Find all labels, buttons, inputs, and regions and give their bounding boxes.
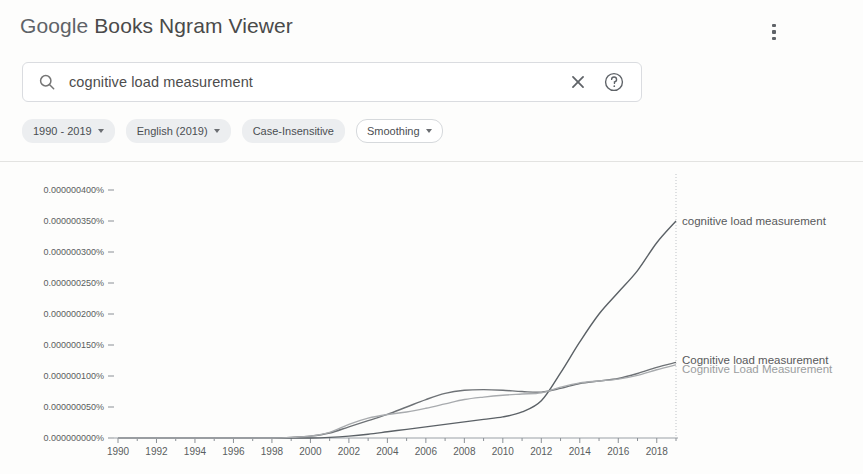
chip-date-range-label: 1990 - 2019 [33,125,92,137]
x-axis-tick-label: 2010 [492,446,515,457]
page-title: Google Books Ngram Viewer [20,14,293,38]
chevron-down-icon [214,129,220,133]
page-title-rest: Books Ngram Viewer [88,14,293,37]
chevron-down-icon [98,129,104,133]
series-line-2[interactable] [118,362,676,438]
x-axis-tick-label: 2002 [338,446,361,457]
chip-corpus[interactable]: English (2019) [126,119,231,143]
close-icon[interactable] [567,71,589,93]
x-axis-tick-label: 2004 [376,446,399,457]
filter-chip-row: 1990 - 2019 English (2019) Case-Insensit… [22,119,443,143]
y-axis-tick-label: 0.000000250% [43,278,104,288]
x-axis-tick-label: 2016 [607,446,630,457]
x-axis-tick-label: 2008 [453,446,476,457]
search-input[interactable]: cognitive load measurement [69,74,567,90]
x-axis-tick-label: 1998 [261,446,284,457]
chip-case-insensitive[interactable]: Case-Insensitive [242,119,345,143]
y-axis-tick-label: 0.000000100% [43,371,104,381]
chip-case-insensitive-label: Case-Insensitive [253,125,334,137]
y-axis-tick-label: 0.000000000% [43,433,104,443]
dot-1 [772,24,776,28]
ngram-chart[interactable]: 0.000000400%0.000000350%0.000000300%0.00… [0,166,863,466]
ngram-chart-svg[interactable]: 0.000000400%0.000000350%0.000000300%0.00… [0,166,863,466]
x-axis-tick-label: 1994 [184,446,207,457]
y-axis-tick-label: 0.000000200% [43,309,104,319]
search-icon [37,72,57,92]
chevron-down-icon [426,129,432,133]
x-axis-tick-label: 2000 [299,446,322,457]
x-axis-tick-label: 1996 [222,446,245,457]
ngram-viewer-page: Google Books Ngram Viewer cognitive load… [0,0,863,474]
x-axis-tick-label: 1990 [107,446,130,457]
x-axis-tick-label: 2012 [530,446,553,457]
x-axis-tick-label: 1992 [145,446,168,457]
y-axis-tick-label: 0.000000150% [43,340,104,350]
x-axis-tick-label: 2018 [646,446,669,457]
chip-smoothing[interactable]: Smoothing [356,119,443,143]
legend-label-3[interactable]: Cognitive Load Measurement [682,363,833,375]
chip-smoothing-label: Smoothing [367,125,420,137]
help-circle-icon[interactable] [603,71,625,93]
google-wordmark: Google [20,14,88,37]
dot-3 [772,37,776,41]
y-axis-tick-label: 0.000000300% [43,247,104,257]
search-bar[interactable]: cognitive load measurement [22,62,642,102]
y-axis-tick-label: 0.000000350% [43,216,104,226]
chip-corpus-label: English (2019) [137,125,208,137]
chip-date-range[interactable]: 1990 - 2019 [22,119,115,143]
header-divider [0,161,863,162]
legend-label-1[interactable]: cognitive load measurement [682,215,827,227]
x-axis-tick-label: 2006 [415,446,438,457]
series-line-3[interactable] [118,365,676,438]
y-axis-tick-label: 0.000000050% [43,402,104,412]
dot-2 [772,30,776,34]
more-options-icon[interactable] [763,18,785,46]
series-line-1[interactable] [118,221,676,438]
y-axis-tick-label: 0.000000400% [43,185,104,195]
x-axis-tick-label: 2014 [569,446,592,457]
